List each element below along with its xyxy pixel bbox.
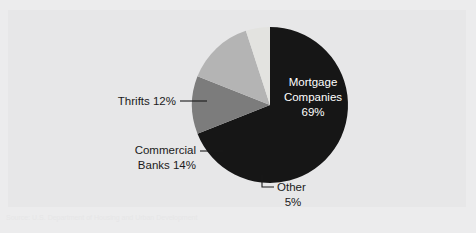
slice-label-mortgage-companies-line1: Mortgage	[289, 76, 338, 88]
slice-label-other-value: 5%	[285, 196, 302, 207]
slice-label-other-line1: Other	[277, 181, 306, 193]
slice-label-thrifts: Thrifts 12%	[118, 95, 176, 107]
page-showthrough-caption: Source: U.S. Department of Housing and U…	[6, 214, 246, 226]
pie-slices-rendered	[192, 27, 348, 183]
slice-label-mortgage-companies-value: 69%	[301, 106, 324, 118]
pie-chart-figure: MortgageCompanies69%Thrifts 12%Commercia…	[8, 10, 466, 207]
slice-label-commercial-banks-line1: Commercial	[135, 144, 196, 156]
slice-label-mortgage-companies-line2: Companies	[284, 91, 342, 103]
pie-chart-panel: MortgageCompanies69%Thrifts 12%Commercia…	[8, 10, 466, 207]
slice-label-commercial-banks-line2: Banks 14%	[138, 159, 196, 171]
